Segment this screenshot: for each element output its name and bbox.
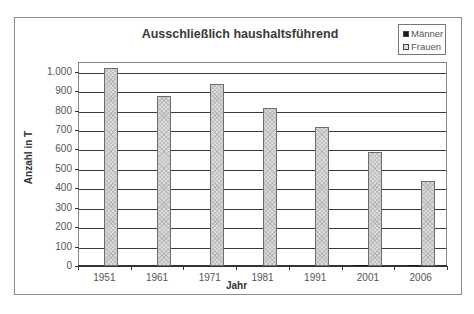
x-tick-mark <box>394 266 395 270</box>
y-tick-mark <box>75 91 79 92</box>
legend-label-maenner: Männer <box>411 28 443 39</box>
legend-swatch-maenner <box>403 31 409 37</box>
y-tick-mark <box>75 130 79 131</box>
bar-frauen <box>104 68 118 266</box>
legend: Männer Frauen <box>398 24 446 55</box>
legend-swatch-frauen <box>403 44 409 50</box>
y-tick-label: 800 <box>20 105 72 116</box>
x-tick-mark <box>289 266 290 270</box>
y-tick-label: 200 <box>20 221 72 232</box>
x-tick-mark <box>78 266 79 270</box>
chart-title: Ausschließlich haushaltsführend <box>100 27 380 41</box>
bar-frauen <box>263 108 277 266</box>
x-tick-mark <box>131 266 132 270</box>
gridline <box>79 92 446 93</box>
x-tick-mark <box>342 266 343 270</box>
bar-frauen <box>315 127 329 266</box>
y-tick-label: 1.000 <box>20 66 72 77</box>
y-tick-label: 300 <box>20 202 72 213</box>
y-axis-title: Anzahl in T <box>23 118 34 198</box>
y-tick-mark <box>75 208 79 209</box>
bar-frauen <box>368 152 382 266</box>
bar-frauen <box>210 84 224 266</box>
bar-maenner <box>407 265 421 266</box>
y-tick-mark <box>75 72 79 73</box>
x-axis-title: Jahr <box>226 280 247 291</box>
legend-item-frauen: Frauen <box>403 41 441 53</box>
x-tick-label: 2001 <box>342 272 394 283</box>
y-tick-mark <box>75 247 79 248</box>
y-tick-label: 900 <box>20 85 72 96</box>
gridline <box>79 73 446 74</box>
x-tick-mark <box>183 266 184 270</box>
x-tick-label: 1961 <box>131 272 183 283</box>
y-tick-label: 0 <box>20 260 72 271</box>
bar-frauen <box>421 181 435 266</box>
y-tick-mark <box>75 149 79 150</box>
y-tick-mark <box>75 169 79 170</box>
legend-item-maenner: Männer <box>403 28 443 40</box>
x-tick-label: 1951 <box>78 272 130 283</box>
y-tick-mark <box>75 188 79 189</box>
x-tick-label: 1991 <box>289 272 341 283</box>
bar-maenner <box>354 265 368 266</box>
y-tick-mark <box>75 227 79 228</box>
x-tick-mark <box>447 266 448 270</box>
x-tick-label: 2006 <box>395 272 447 283</box>
legend-label-frauen: Frauen <box>411 41 441 52</box>
y-tick-label: 100 <box>20 241 72 252</box>
y-tick-mark <box>75 111 79 112</box>
bar-frauen <box>157 96 171 266</box>
x-tick-mark <box>236 266 237 270</box>
